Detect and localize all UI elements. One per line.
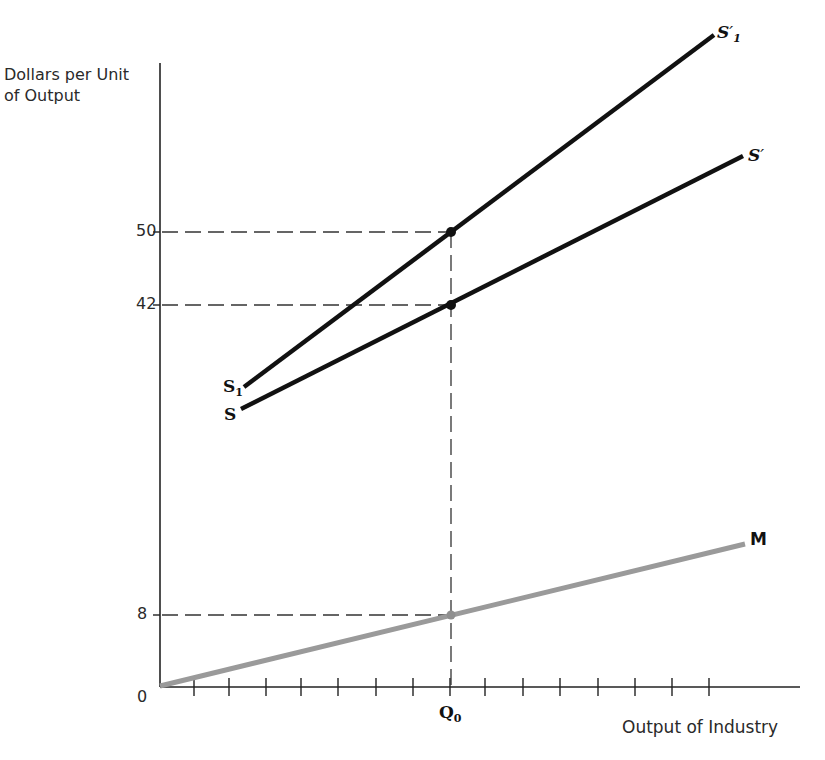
s1-start-main: S: [223, 376, 235, 396]
y-axis-label-line2: of Output: [4, 85, 129, 106]
point-8: [447, 611, 456, 620]
dashed-guides: [162, 232, 451, 686]
x-tick-label-q0: Q0: [439, 702, 461, 722]
y-axis-label: Dollars per Unit of Output: [4, 64, 129, 106]
y-tick-label-8: 8: [137, 604, 147, 623]
point-50: [446, 227, 456, 237]
label-s1-end: S′1: [717, 22, 741, 42]
s1-end-main: S: [717, 22, 729, 42]
label-s1-start: S1: [223, 376, 243, 396]
x-axis-label: Output of Industry: [622, 717, 778, 737]
s1-curve: [244, 35, 714, 387]
y-tick-marks: [153, 232, 160, 615]
s-end-main: S: [748, 145, 760, 165]
q0-main: Q: [439, 702, 454, 722]
y-tick-label-0: 0: [137, 687, 147, 706]
label-s-start: S: [224, 404, 236, 424]
q0-subscript: 0: [454, 712, 462, 725]
s-curve: [241, 156, 743, 409]
label-m-end: M: [750, 529, 767, 549]
point-42: [446, 300, 456, 310]
y-tick-label-50: 50: [136, 221, 156, 240]
s1-start-sub: 1: [235, 386, 243, 399]
chart-canvas: [0, 0, 825, 760]
s1-end-sub: 1: [733, 32, 741, 45]
s-end-prime: ′: [760, 145, 764, 165]
label-s-end: S′: [748, 145, 764, 165]
y-axis-label-line1: Dollars per Unit: [4, 64, 129, 85]
y-tick-label-42: 42: [136, 294, 156, 313]
